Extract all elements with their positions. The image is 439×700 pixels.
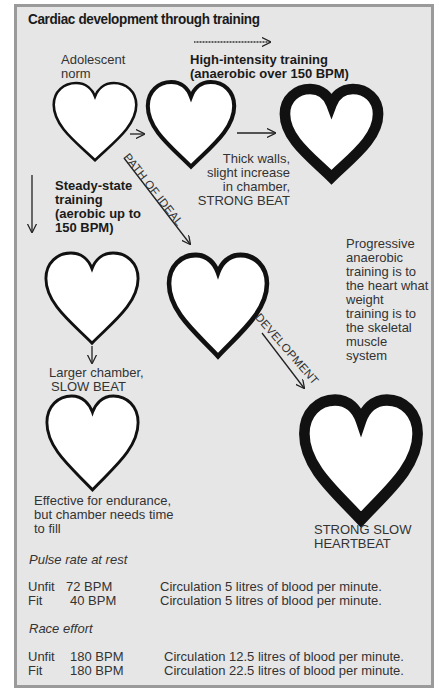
text-line: the skeletal — [346, 321, 428, 335]
label-strong-slow-heartbeat: STRONG SLOW HEARTBEAT — [314, 523, 412, 551]
text-line: but chamber needs time — [34, 508, 173, 522]
table-row: Unfit 180 BPM Circulation 12.5 litres of… — [28, 650, 404, 664]
text-line: STRONG SLOW — [314, 523, 412, 537]
text-line: 150 BPM) — [55, 221, 141, 235]
text-line: Adolescent — [61, 53, 125, 67]
text-line: to fill — [34, 522, 173, 536]
table-row: Unfit 72 BPM Circulation 5 litres of blo… — [28, 580, 382, 594]
cell-group: Fit — [28, 594, 66, 608]
text-line: norm — [61, 67, 125, 81]
label-steady-state: Steady-state training (aerobic up to 150… — [55, 179, 141, 235]
label-high-intensity: High-intensity training (anaerobic over … — [190, 53, 349, 81]
heart-adolescent-norm — [54, 83, 137, 160]
text-line: Steady-state — [55, 179, 141, 193]
cell-group: Unfit — [28, 650, 66, 664]
cell-circulation: Circulation 5 litres of blood per minute… — [160, 580, 382, 594]
cell-group: Fit — [28, 664, 66, 678]
text-line: anaerobic — [346, 251, 428, 265]
heart-strong-slow — [304, 400, 417, 520]
text-line: Larger chamber, — [49, 366, 144, 380]
cell-group: Unfit — [28, 580, 66, 594]
text-line: system — [346, 349, 428, 363]
race-effort-table: Unfit 180 BPM Circulation 12.5 litres of… — [28, 650, 404, 677]
pulse-rest-heading: Pulse rate at rest — [29, 553, 127, 567]
text-line: (aerobic up to — [55, 207, 141, 221]
cell-bpm: 180 BPM — [66, 664, 164, 678]
label-progressive-anaerobic: Progressive anaerobic training is to the… — [346, 237, 428, 363]
heart-endurance — [47, 396, 138, 490]
text-line: training is to — [346, 265, 428, 279]
label-adolescent-norm: Adolescent norm — [61, 53, 125, 81]
label-effective-endurance: Effective for endurance, but chamber nee… — [34, 494, 173, 536]
label-larger-chamber: Larger chamber, SLOW BEAT — [49, 366, 144, 394]
cell-circulation: Circulation 12.5 litres of blood per min… — [164, 650, 404, 664]
cell-bpm: 72 BPM — [66, 580, 160, 594]
label-thick-walls: Thick walls, slight increase in chamber,… — [196, 152, 290, 208]
heart-thick-walls — [285, 89, 378, 177]
text-line: the heart what — [346, 279, 428, 293]
cell-bpm: 180 BPM — [66, 650, 164, 664]
text-line: weight — [346, 293, 428, 307]
text-line: HEARTBEAT — [314, 537, 412, 551]
heart-path-of-ideal — [169, 255, 267, 356]
text-line: Effective for endurance, — [34, 494, 173, 508]
text-line: training is to — [346, 307, 428, 321]
text-line: training — [55, 193, 141, 207]
text-line: STRONG BEAT — [196, 194, 290, 208]
cell-circulation: Circulation 5 litres of blood per minute… — [160, 594, 382, 608]
text-line: Progressive — [346, 237, 428, 251]
heart-larger-chamber — [46, 253, 138, 343]
pulse-rest-table: Unfit 72 BPM Circulation 5 litres of blo… — [28, 580, 382, 607]
text-line: Thick walls, — [196, 152, 290, 166]
cell-bpm: 40 BPM — [66, 594, 160, 608]
text-line: muscle — [346, 335, 428, 349]
table-row: Fit 40 BPM Circulation 5 litres of blood… — [28, 594, 382, 608]
text-line: (anaerobic over 150 BPM) — [190, 67, 349, 81]
text-line: High-intensity training — [190, 53, 349, 67]
table-row: Fit 180 BPM Circulation 22.5 litres of b… — [28, 664, 404, 678]
text-line: in chamber, — [196, 180, 290, 194]
text-line: SLOW BEAT — [49, 380, 144, 394]
cell-circulation: Circulation 22.5 litres of blood per min… — [164, 664, 404, 678]
race-effort-heading: Race effort — [29, 622, 93, 636]
text-line: slight increase — [196, 166, 290, 180]
